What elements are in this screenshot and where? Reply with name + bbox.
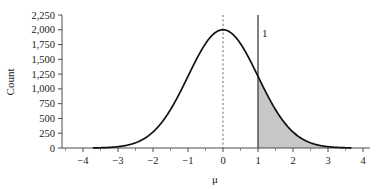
- y-tick-label: 0: [50, 143, 55, 154]
- x-tick-label: 1: [255, 155, 260, 166]
- x-tick-label: 3: [325, 155, 330, 166]
- critical-value-line-label: 1: [262, 27, 268, 39]
- x-axis-ticks: [66, 148, 364, 152]
- x-tick-label: 0: [220, 155, 225, 166]
- y-tick-label: 2,000: [31, 24, 55, 35]
- x-tick-label: 2: [290, 155, 295, 166]
- chart-canvas: 02505007501,0001,2501,5001,7502,0002,250…: [0, 0, 380, 189]
- y-axis-tick-labels: 02505007501,0001,2501,5001,7502,0002,250: [31, 10, 55, 154]
- chart-axes: [62, 15, 370, 148]
- distribution-curve: [94, 30, 351, 148]
- shaded-tail-area: [258, 76, 351, 148]
- y-tick-label: 2,250: [31, 10, 55, 21]
- x-tick-label: −1: [182, 155, 193, 166]
- x-tick-label: −2: [147, 155, 158, 166]
- x-axis-title: μ: [212, 173, 218, 185]
- y-tick-label: 250: [39, 128, 55, 139]
- reference-lines: [223, 15, 258, 148]
- normal-distribution-chart: 02505007501,0001,2501,5001,7502,0002,250…: [0, 0, 380, 189]
- normal-curve-path: [94, 30, 351, 148]
- y-axis-ticks: [58, 15, 62, 148]
- y-tick-label: 1,250: [31, 69, 55, 80]
- x-axis-tick-labels: −4−3−2−101234: [77, 155, 366, 166]
- shaded-tail-region: [258, 76, 351, 148]
- y-tick-label: 500: [39, 113, 55, 124]
- y-tick-label: 750: [39, 98, 55, 109]
- x-tick-label: −3: [112, 155, 123, 166]
- x-tick-label: 4: [360, 155, 366, 166]
- y-tick-label: 1,000: [31, 83, 55, 94]
- x-tick-label: −4: [77, 155, 89, 166]
- y-tick-label: 1,750: [31, 39, 55, 50]
- y-tick-label: 1,500: [31, 54, 55, 65]
- y-axis-title: Count: [4, 69, 16, 96]
- reference-line-annotations: 1: [262, 27, 268, 39]
